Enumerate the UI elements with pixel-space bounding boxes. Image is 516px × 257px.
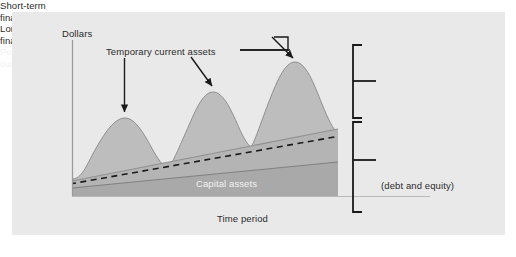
temporary-current-assets-label: Temporary current assets (106, 46, 216, 58)
callout-arrow-hump3 (272, 37, 293, 58)
callout-arrow-hump2 (191, 57, 212, 86)
bracket-short-term-financing (353, 45, 376, 118)
callout-leader-bend (240, 37, 288, 50)
y-axis-label: Dollars (62, 28, 92, 40)
plot-areas (70, 62, 340, 196)
bracket-long-term-financing (353, 122, 376, 212)
capital-assets-label: Capital assets (196, 178, 257, 190)
x-axis-label: Time period (217, 213, 268, 225)
debt-and-equity-label: (debt and equity) (381, 180, 454, 192)
figure-root: Dollars Temporary current assets Time pe… (0, 0, 516, 257)
